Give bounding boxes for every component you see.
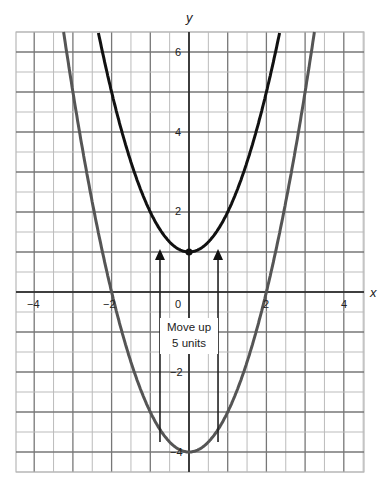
x-tick-neg4: −4 <box>27 298 40 310</box>
x-tick-neg2: −2 <box>103 298 116 310</box>
graph-canvas: y x −4 −2 0 2 4 6 4 2 −2 −4 Move up 5 un… <box>0 0 391 489</box>
vertex-point <box>186 249 193 256</box>
note-line-1: Move up <box>167 321 211 333</box>
y-tick-neg2: −2 <box>170 366 183 378</box>
origin-label: 0 <box>175 298 181 310</box>
x-axis-label: x <box>369 285 377 300</box>
y-tick-6: 6 <box>175 46 181 58</box>
x-tick-4: 4 <box>341 298 347 310</box>
note-line-2: 5 units <box>172 337 206 349</box>
x-tick-2: 2 <box>263 298 269 310</box>
y-tick-4: 4 <box>175 126 181 138</box>
y-axis-label: y <box>185 10 194 25</box>
y-tick-2: 2 <box>175 205 181 217</box>
y-tick-neg4: −4 <box>170 446 183 458</box>
